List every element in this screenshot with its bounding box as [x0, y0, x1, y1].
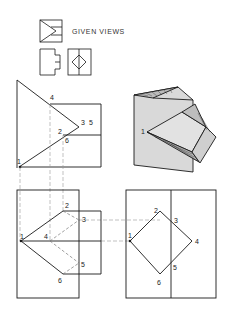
front-label-3: 3	[81, 119, 85, 126]
side-label-2: 2	[154, 207, 158, 214]
top-label-4: 4	[44, 233, 48, 240]
drawing-canvas: GIVEN VIEWS	[0, 0, 228, 313]
pictorial-label-1: 1	[141, 128, 145, 135]
top-label-6: 6	[58, 277, 62, 284]
side-label-6: 6	[157, 279, 161, 286]
side-label-1: 1	[128, 232, 132, 239]
given-views-label: GIVEN VIEWS	[72, 28, 125, 35]
top-view-hidden	[50, 211, 79, 274]
front-label-6: 6	[65, 137, 69, 144]
given-front-view-icon	[40, 20, 62, 42]
side-label-4: 4	[195, 238, 199, 245]
side-point-1-dot	[129, 240, 132, 243]
top-label-1: 1	[20, 233, 24, 240]
side-label-3: 3	[174, 217, 178, 224]
front-label-4: 4	[50, 94, 54, 101]
given-side-view-icon	[68, 49, 91, 75]
front-label-1: 1	[17, 158, 21, 165]
side-view	[126, 190, 216, 298]
given-top-view-icon	[40, 49, 60, 75]
side-label-5: 5	[173, 264, 177, 271]
top-label-5: 5	[81, 261, 85, 268]
front-label-2: 2	[58, 128, 62, 135]
top-label-3: 3	[82, 216, 86, 223]
front-label-5: 5	[89, 119, 93, 126]
top-label-2: 2	[65, 202, 69, 209]
top-point-1-dot	[20, 240, 23, 243]
pictorial-view	[134, 87, 216, 172]
